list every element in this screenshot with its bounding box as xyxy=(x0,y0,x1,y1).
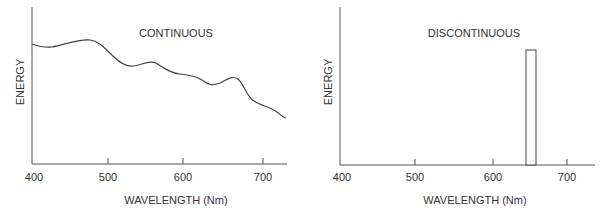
tick-label-600: 600 xyxy=(174,171,192,183)
x-axis-label: WAVELENGTH (Nm) xyxy=(124,194,227,206)
tick-label-500: 500 xyxy=(99,171,117,183)
chart-title: DISCONTINUOUS xyxy=(428,27,520,39)
x-axis-label: WAVELENGTH (Nm) xyxy=(423,194,526,206)
continuous-curve xyxy=(32,40,286,118)
tick-label-700: 700 xyxy=(558,171,576,183)
chart-title: CONTINUOUS xyxy=(139,27,213,39)
tick-label-700: 700 xyxy=(254,171,272,183)
tick-label-400: 400 xyxy=(25,171,43,183)
y-axis-label: ENERGY xyxy=(322,58,334,105)
y-axis-label: ENERGY xyxy=(14,58,26,105)
tick-label-400: 400 xyxy=(333,171,351,183)
emission-bar xyxy=(526,50,536,165)
spectra-figure: 400 500 600 700 WAVELENGTH (Nm) CONTINUO… xyxy=(0,0,611,217)
discontinuous-chart: 400 500 600 700 WAVELENGTH (Nm) DISCONTI… xyxy=(322,7,595,206)
continuous-chart: 400 500 600 700 WAVELENGTH (Nm) CONTINUO… xyxy=(14,7,287,206)
tick-label-500: 500 xyxy=(406,171,424,183)
tick-label-600: 600 xyxy=(484,171,502,183)
